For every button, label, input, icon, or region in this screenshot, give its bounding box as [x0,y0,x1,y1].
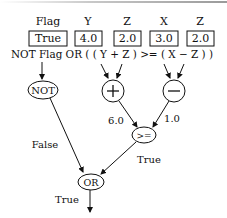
var-name-x: X [160,15,168,28]
value-z2: 2.0 [192,32,210,45]
node-or-label: OR [84,177,100,188]
arrow-y-to-plus [101,64,108,78]
arrow-z-to-plus [117,64,122,78]
edge-label-minus-result: 1.0 [164,113,180,124]
var-name-flag: Flag [36,15,61,28]
node-not-label: NOT [31,85,55,96]
arrow-z-to-minus [178,64,184,78]
var-name-y: Y [83,15,92,28]
edge-label-output: True [55,194,79,205]
expression-text: NOT Flag OR ( ( Y + Z ) >= ( X − Z ) ) [11,48,213,60]
edge-label-not-result: False [32,139,59,150]
arrow-gte-to-or [101,142,136,174]
edge-label-plus-result: 6.0 [108,115,124,126]
value-x: 3.0 [155,32,173,45]
var-name-z1: Z [123,15,131,28]
var-name-z2: Z [196,15,204,28]
arrow-x-to-minus [164,64,170,78]
expression-tree-diagram: Flag Y Z X Z True 4.0 2.0 3.0 2.0 NOT Fl… [0,0,227,218]
value-y: 4.0 [80,32,98,45]
edge-label-gte-result: True [137,154,161,165]
arrow-not-to-or [50,98,83,172]
node-gte-label: >= [136,131,151,141]
value-z1: 2.0 [119,32,137,45]
value-flag: True [35,32,61,45]
